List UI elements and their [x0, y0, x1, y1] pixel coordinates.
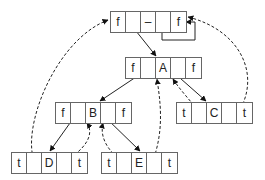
node-B: f B f	[55, 102, 132, 124]
cell-left-pointer	[27, 153, 42, 173]
cell-right-pointer	[222, 103, 237, 123]
thread-D-to-head	[32, 20, 108, 163]
cell-data: B	[86, 103, 101, 123]
cell-right-tag: t	[162, 153, 177, 173]
cell-left-pointer	[117, 153, 132, 173]
node-C: t C t	[176, 102, 253, 124]
cell-right-tag: f	[116, 103, 131, 123]
node-E: t E t	[101, 152, 178, 174]
node-D: t D t	[11, 152, 88, 174]
node-head: f – f	[110, 11, 187, 33]
cell-left-pointer	[71, 103, 86, 123]
cell-right-tag: f	[186, 58, 201, 78]
thread-E-to-A	[152, 79, 161, 163]
cell-right-pointer	[101, 103, 116, 123]
cell-data: A	[156, 58, 171, 78]
cell-right-pointer	[57, 153, 72, 173]
cell-right-pointer	[156, 12, 171, 32]
cell-left-pointer	[141, 58, 156, 78]
cell-right-tag: f	[171, 12, 186, 32]
cell-right-tag: t	[72, 153, 87, 173]
cell-right-tag: t	[237, 103, 252, 123]
cell-left-tag: f	[126, 58, 141, 78]
cell-data: D	[42, 153, 57, 173]
cell-right-pointer	[171, 58, 186, 78]
node-A: f A f	[125, 57, 202, 79]
cell-left-tag: f	[111, 12, 126, 32]
cell-left-pointer	[126, 12, 141, 32]
cell-left-tag: t	[102, 153, 117, 173]
cell-left-tag: t	[12, 153, 27, 173]
cell-left-tag: t	[177, 103, 192, 123]
cell-left-tag: f	[56, 103, 71, 123]
cell-left-pointer	[192, 103, 207, 123]
cell-data: E	[132, 153, 147, 173]
cell-data: C	[207, 103, 222, 123]
cell-right-pointer	[147, 153, 162, 173]
cell-data: –	[141, 12, 156, 32]
